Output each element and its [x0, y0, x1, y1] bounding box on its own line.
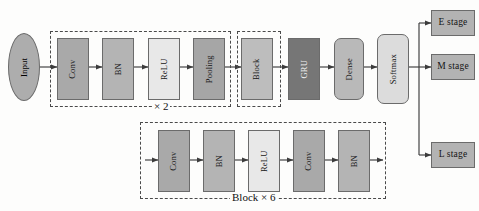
node-bn-1-label: BN [114, 63, 123, 75]
output-stage-m: M stage [431, 54, 475, 80]
node-pooling: Pooling [193, 38, 225, 100]
node-block: Block [241, 38, 273, 100]
node-gru: GRU [288, 38, 320, 100]
input-node-label: Input [20, 58, 29, 77]
input-node: Input [8, 33, 40, 101]
node-relu-1-label: ReLU [160, 58, 169, 80]
node-softmax: Softmax [377, 34, 409, 104]
node-pooling-label: Pooling [205, 55, 214, 83]
node-block-detail-bn-2: BN [338, 130, 370, 192]
output-stage-e: E stage [431, 10, 475, 36]
output-stage-m-label: M stage [437, 62, 469, 72]
node-conv-1: Conv [57, 38, 89, 100]
node-dense: Dense [334, 38, 364, 100]
node-block-detail-bn-2-label: BN [350, 155, 359, 167]
output-stage-e-label: E stage [438, 18, 467, 28]
node-block-detail-conv-2: Conv [293, 130, 325, 192]
conv-block-repeat-label: × 2 [152, 101, 170, 112]
node-block-detail-conv-1-label: Conv [170, 151, 179, 170]
node-block-detail-conv-1: Conv [158, 130, 190, 192]
node-conv-1-label: Conv [69, 59, 78, 78]
output-stage-l-label: L stage [439, 150, 468, 160]
output-stage-l: L stage [431, 142, 475, 168]
node-block-detail-bn-1: BN [203, 130, 235, 192]
node-block-detail-relu: ReLU [248, 130, 280, 192]
node-relu-1: ReLU [148, 38, 180, 100]
node-bn-1: BN [102, 38, 134, 100]
node-softmax-label: Softmax [389, 54, 398, 84]
node-block-detail-relu-label: ReLU [260, 150, 269, 172]
architecture-diagram: × 2 Block × 6 Input Conv BN ReLU Pooling… [0, 0, 479, 211]
block-detail-repeat-label: Block × 6 [230, 192, 277, 203]
node-block-detail-conv-2-label: Conv [305, 151, 314, 170]
node-gru-label: GRU [300, 60, 309, 79]
node-block-detail-bn-1-label: BN [215, 155, 224, 167]
node-block-label: Block [253, 58, 262, 79]
node-dense-label: Dense [345, 58, 354, 80]
